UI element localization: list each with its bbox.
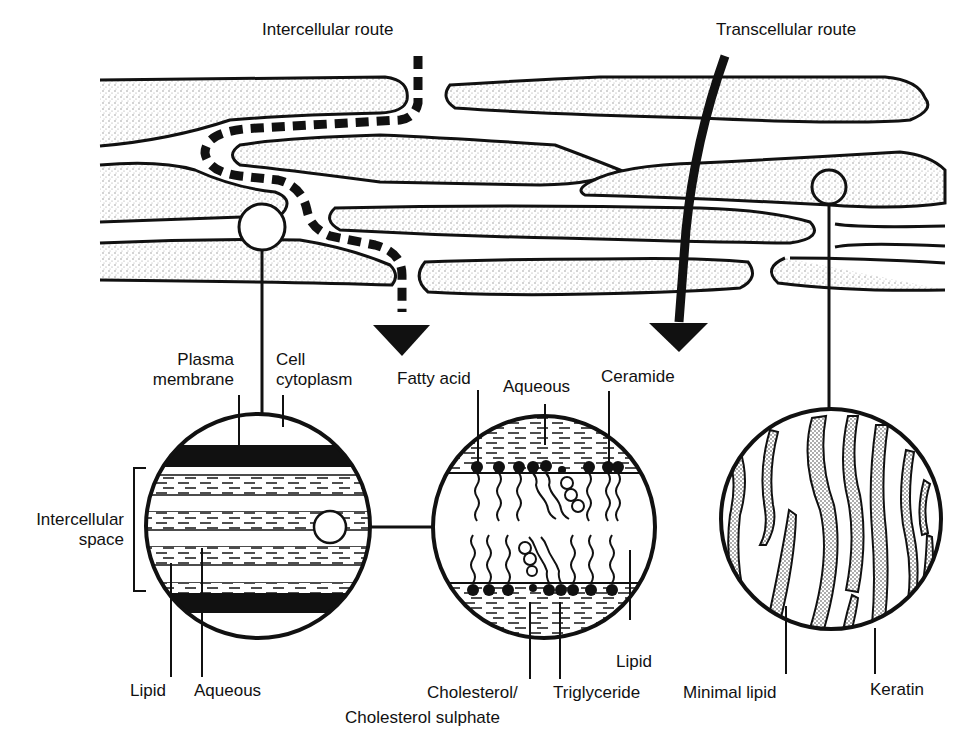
callout-circle-left [239, 204, 285, 250]
intercellular-space-label: Intercellular space [4, 510, 124, 550]
aqueous-label-left: Aqueous [194, 681, 261, 701]
lipid-label-middle: Lipid [616, 652, 652, 672]
stratum-corneum-diagram [0, 0, 965, 747]
corneocyte [233, 135, 621, 185]
keratin-filament [871, 425, 888, 627]
cell-cytoplasm-label: Cell cytoplasm [276, 350, 353, 390]
left-inset-intercellular-space [134, 395, 380, 677]
triglyceride-label: Triglyceride [553, 683, 640, 703]
aqueous-label-middle: Aqueous [503, 377, 570, 397]
transcellular-route-label: Transcellular route [716, 20, 856, 40]
corneocyte [419, 258, 752, 294]
aqueous-bottom [430, 585, 660, 655]
fatty-acid-label: Fatty acid [397, 369, 471, 389]
corneocyte-layers [100, 77, 945, 295]
cholesterol-label: Cholesterol/ [427, 683, 518, 703]
intercellular-arrowhead [373, 325, 430, 356]
corneocyte [581, 152, 945, 207]
corneocyte [330, 206, 815, 243]
ceramide-label: Ceramide [601, 367, 675, 387]
keratin-label: Keratin [870, 680, 924, 700]
zoom-callout [314, 511, 346, 543]
lipid-label-left: Lipid [130, 681, 166, 701]
corneocyte [835, 224, 945, 247]
cholesterol-sulphate-label: Cholesterol sulphate [345, 708, 500, 728]
transcellular-arrowhead [649, 323, 708, 352]
minimal-lipid-label: Minimal lipid [683, 683, 777, 703]
intercellular-route-label: Intercellular route [262, 20, 393, 40]
plasma-membrane-label: Plasma membrane [150, 350, 234, 390]
corneocyte [771, 258, 945, 290]
right-inset-keratin [715, 405, 950, 674]
middle-inset-lipid-bilayer [430, 390, 660, 679]
corneocyte [446, 77, 928, 122]
